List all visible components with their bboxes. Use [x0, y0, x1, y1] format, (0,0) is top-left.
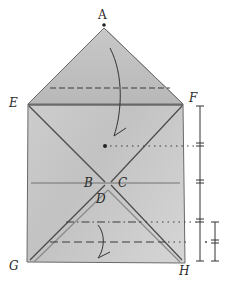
- label-B: B: [83, 176, 93, 190]
- label-D: D: [95, 192, 106, 206]
- label-C: C: [118, 176, 127, 190]
- label-E: E: [8, 96, 18, 110]
- label-G: G: [9, 259, 19, 273]
- label-H: H: [178, 264, 190, 278]
- label-A: A: [97, 8, 107, 22]
- origami-diagram: A E F B C D G H: [0, 0, 227, 284]
- apex-dot: [102, 23, 106, 27]
- measurement-marks-secondary: [211, 222, 219, 261]
- target-dot: [103, 144, 107, 148]
- measurement-marks-main: [196, 106, 204, 261]
- label-F: F: [188, 91, 198, 105]
